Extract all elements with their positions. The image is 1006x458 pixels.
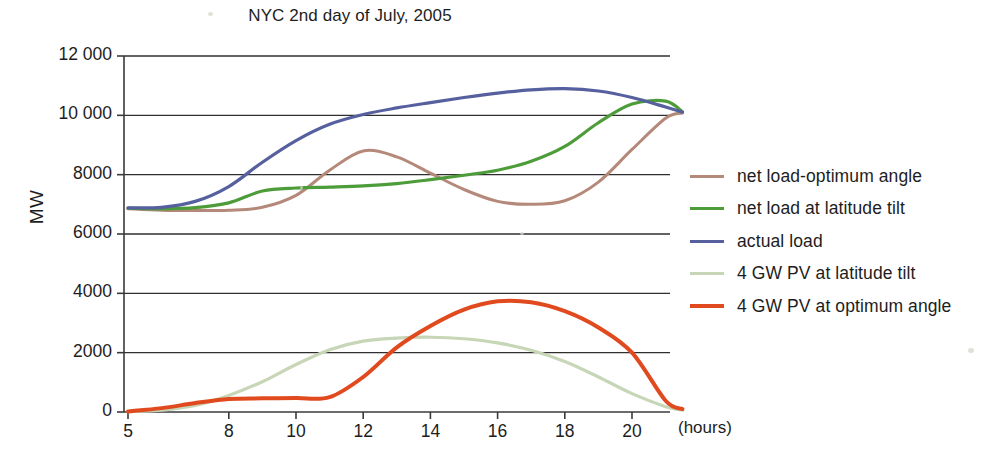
legend-color-swatch — [690, 240, 724, 243]
x-axis-tick-label: 12 — [343, 421, 383, 442]
chart-figure: NYC 2nd day of July, 2005 MW 02000400060… — [0, 0, 1006, 458]
x-axis-label: (hours) — [678, 418, 732, 438]
x-axis-tick-label: 5 — [108, 421, 148, 442]
chart-legend: net load-optimum anglenet load at latitu… — [690, 160, 951, 323]
series-line — [128, 301, 682, 412]
x-axis-tick-label: 8 — [209, 421, 249, 442]
legend-item[interactable]: net load-optimum angle — [690, 160, 951, 193]
x-axis-tick-label: 18 — [545, 421, 585, 442]
legend-item[interactable]: 4 GW PV at latitude tilt — [690, 258, 951, 291]
scan-artifact — [208, 12, 213, 16]
x-axis-tick-label: 20 — [612, 421, 652, 442]
legend-item[interactable]: net load at latitude tilt — [690, 193, 951, 226]
series-line — [128, 89, 682, 208]
legend-item-label: actual load — [737, 231, 823, 252]
legend-item-label: 4 GW PV at optimum angle — [737, 296, 951, 317]
legend-item[interactable]: actual load — [690, 225, 951, 258]
x-axis-tick-label: 10 — [276, 421, 316, 442]
legend-item-label: net load-optimum angle — [737, 166, 922, 187]
series-line — [128, 100, 682, 208]
legend-color-swatch — [690, 175, 724, 178]
x-axis-tick-label: 14 — [410, 421, 450, 442]
scan-artifact — [520, 232, 524, 235]
legend-item[interactable]: 4 GW PV at optimum angle — [690, 290, 951, 323]
legend-color-swatch — [690, 207, 724, 210]
scan-artifact — [968, 348, 974, 353]
scan-artifact — [300, 186, 303, 189]
legend-item-label: net load at latitude tilt — [737, 198, 905, 219]
x-axis-tick-label: 16 — [478, 421, 518, 442]
legend-item-label: 4 GW PV at latitude tilt — [737, 263, 915, 284]
legend-color-swatch — [690, 272, 724, 275]
legend-color-swatch — [690, 304, 724, 308]
